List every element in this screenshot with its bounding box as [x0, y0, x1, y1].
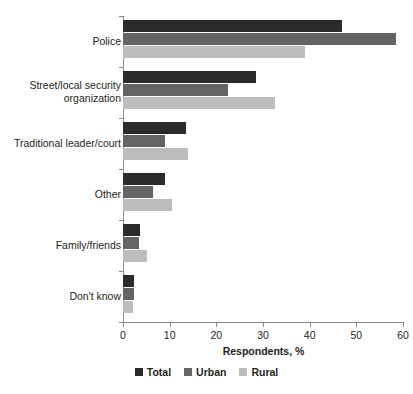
x-tick-label-0: 0: [108, 329, 138, 341]
legend-item-urban: Urban: [184, 366, 226, 378]
category-label-traditional-leader-court: Traditional leader/court: [0, 137, 121, 150]
bar-other-rural: [123, 199, 172, 211]
bar-dontknow-urban: [123, 288, 134, 300]
x-tick-50: [356, 322, 357, 327]
bar-chart: Police Street/local security organizatio…: [0, 0, 413, 394]
x-tick-60: [403, 322, 404, 327]
x-tick-label-40: 40: [295, 329, 325, 341]
category-label-other: Other: [0, 188, 121, 201]
bar-dontknow-total: [123, 275, 134, 287]
category-label-family-friends: Family/friends: [0, 239, 121, 252]
category-group-dont-know: Don't know: [0, 271, 413, 322]
x-axis-title: Respondents, %: [123, 345, 404, 357]
category-group-street-local-security-organization: Street/local security organization: [0, 67, 413, 118]
y-tick-0: [119, 16, 124, 17]
bar-family-rural: [123, 250, 147, 262]
category-group-traditional-leader-court: Traditional leader/court: [0, 118, 413, 169]
category-group-police: Police: [0, 16, 413, 67]
x-tick-label-20: 20: [201, 329, 231, 341]
x-tick-30: [263, 322, 264, 327]
legend-label-rural: Rural: [251, 366, 278, 378]
bar-traditional-rural: [123, 148, 188, 160]
category-label-street-line1: Street/local security: [0, 79, 121, 92]
y-tick-1: [119, 67, 124, 68]
bar-family-total: [123, 224, 140, 236]
x-tick-20: [216, 322, 217, 327]
legend-swatch-rural: [239, 368, 247, 376]
x-tick-label-50: 50: [341, 329, 371, 341]
bar-other-total: [123, 173, 165, 185]
y-tick-5: [119, 271, 124, 272]
bar-police-urban: [123, 33, 396, 45]
y-tick-4: [119, 220, 124, 221]
bar-traditional-urban: [123, 135, 165, 147]
x-tick-label-60: 60: [388, 329, 413, 341]
bar-traditional-total: [123, 122, 186, 134]
x-tick-10: [170, 322, 171, 327]
category-label-police: Police: [0, 35, 121, 48]
category-label-dont-know: Don't know: [0, 290, 121, 303]
bar-police-total: [123, 20, 342, 32]
legend-swatch-urban: [184, 368, 192, 376]
x-tick-label-10: 10: [155, 329, 185, 341]
x-tick-0: [123, 322, 124, 327]
bar-other-urban: [123, 186, 153, 198]
legend-swatch-total: [135, 368, 143, 376]
chart-legend: Total Urban Rural: [0, 366, 413, 378]
legend-item-rural: Rural: [239, 366, 278, 378]
bar-street-rural: [123, 97, 275, 109]
bar-police-rural: [123, 46, 305, 58]
x-tick-40: [310, 322, 311, 327]
category-group-other: Other: [0, 169, 413, 220]
legend-item-total: Total: [135, 366, 171, 378]
x-tick-label-30: 30: [248, 329, 278, 341]
category-label-street-line2: organization: [0, 92, 121, 105]
bar-street-total: [123, 71, 256, 83]
category-group-family-friends: Family/friends: [0, 220, 413, 271]
bar-family-urban: [123, 237, 139, 249]
bar-street-urban: [123, 84, 228, 96]
bar-dontknow-rural: [123, 301, 133, 313]
legend-label-total: Total: [147, 366, 171, 378]
legend-label-urban: Urban: [196, 366, 226, 378]
y-tick-2: [119, 118, 124, 119]
y-tick-3: [119, 169, 124, 170]
